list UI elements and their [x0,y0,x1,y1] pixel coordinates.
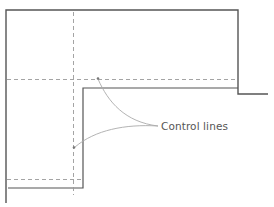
leader-line-bottom [75,126,158,147]
control-lines-diagram: Control lines [0,0,274,207]
leader-tip-top-icon [97,77,100,80]
outer-outline [6,10,268,203]
inner-outline [8,88,238,188]
control-lines-label: Control lines [161,120,228,132]
diagram-drawing [0,0,274,207]
leader-tip-bottom-icon [73,146,76,149]
leader-line-top [98,79,158,126]
